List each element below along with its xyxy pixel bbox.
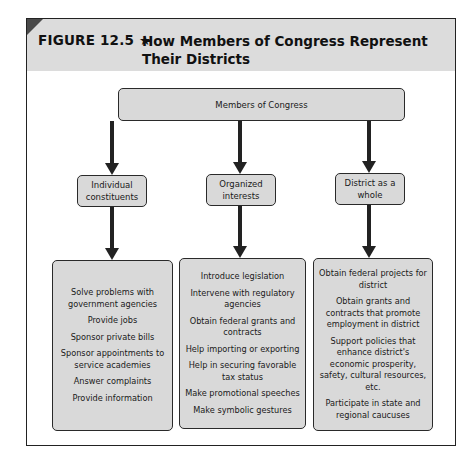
figure-label: FIGURE 12.5 ★ (38, 32, 151, 48)
arrow-individual-to-activities (105, 207, 119, 260)
activity-item: Answer complaints (74, 376, 152, 388)
activities-box-district: Obtain federal projects for district Obt… (313, 258, 433, 431)
branch-label: Individual constituents (78, 179, 146, 203)
arrow-root-to-district (362, 121, 376, 173)
arrow-root-to-individual (105, 121, 119, 175)
branch-box-organized-interests: Organized interests (206, 174, 276, 206)
activity-item: Make promotional speeches (185, 388, 300, 400)
branch-label: District as a whole (336, 177, 404, 201)
arrow-district-to-activities (362, 205, 376, 258)
activity-item: Participate in state and regional caucus… (317, 398, 429, 421)
arrow-organized-to-activities (233, 206, 247, 258)
activity-item: Obtain federal grants and contracts (183, 316, 302, 339)
activity-item: Intervene with regulatory agencies (183, 288, 302, 311)
activity-item: Sponsor private bills (71, 332, 155, 344)
activity-item: Help in securing favorable tax status (183, 360, 302, 383)
branch-label: Organized interests (207, 178, 275, 202)
activity-item: Obtain federal projects for district (317, 268, 429, 291)
activities-box-organized: Introduce legislation Intervene with reg… (179, 258, 306, 429)
activities-box-individual: Solve problems with government agencies … (52, 260, 173, 431)
arrow-root-to-organized (233, 121, 247, 174)
activity-item: Provide information (72, 393, 152, 405)
branch-box-district-as-a-whole: District as a whole (335, 173, 405, 205)
activity-item: Help importing or exporting (186, 344, 300, 356)
root-label: Members of Congress (215, 100, 307, 110)
root-box-members-of-congress: Members of Congress (118, 88, 405, 121)
activity-item: Introduce legislation (201, 271, 285, 283)
branch-box-individual-constituents: Individual constituents (77, 175, 147, 207)
activity-item: Support policies that enhance district's… (317, 336, 429, 394)
activity-item: Solve problems with government agencies (56, 287, 169, 310)
activity-item: Provide jobs (88, 315, 138, 327)
figure-title: How Members of Congress Represent Their … (142, 32, 442, 68)
activity-item: Sponsor appointments to service academie… (56, 348, 169, 371)
activity-item: Obtain grants and contracts that promote… (317, 296, 429, 331)
figure-header: FIGURE 12.5 ★ How Members of Congress Re… (27, 19, 455, 71)
activity-item: Make symbolic gestures (193, 405, 292, 417)
